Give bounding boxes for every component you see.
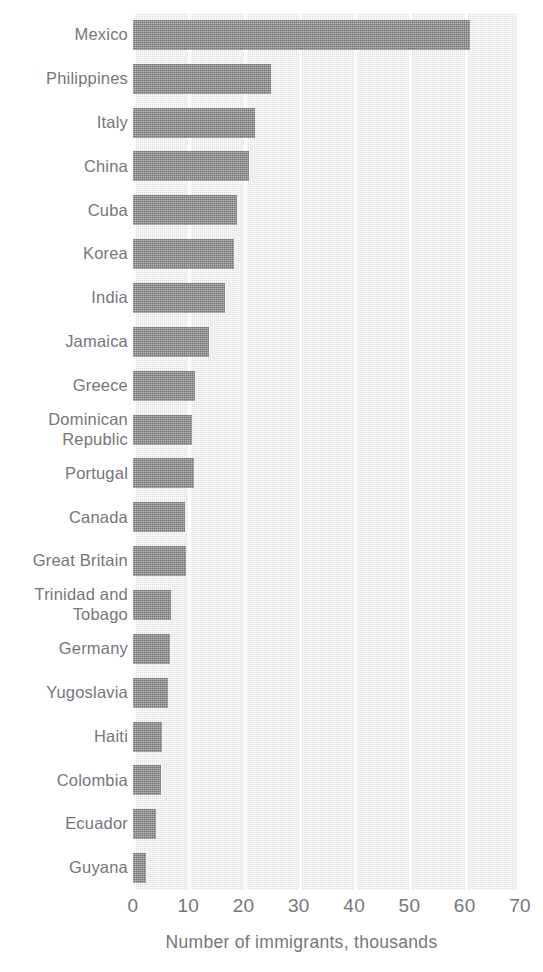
bar — [133, 195, 237, 225]
bar — [133, 502, 185, 532]
bar — [133, 151, 249, 181]
category-label: Yugoslavia — [0, 683, 128, 703]
bar-row — [133, 64, 520, 94]
category-label: Haiti — [0, 727, 128, 747]
bar-row — [133, 108, 520, 138]
category-label: Great Britain — [0, 551, 128, 571]
category-label: Jamaica — [0, 332, 128, 352]
bar-row — [133, 502, 520, 532]
x-tick-label-0: 0 — [128, 893, 139, 919]
category-label: Canada — [0, 508, 128, 528]
gridline-70 — [517, 13, 520, 890]
gridline-0 — [133, 13, 136, 890]
category-label: China — [0, 157, 128, 177]
bar — [133, 20, 470, 50]
bar-row — [133, 20, 520, 50]
bar-row — [133, 546, 520, 576]
bar-row — [133, 765, 520, 795]
bar — [133, 590, 171, 620]
bar — [133, 283, 225, 313]
bar — [133, 765, 161, 795]
x-tick-label-30: 30 — [288, 893, 310, 919]
bar-row — [133, 283, 520, 313]
bar-row — [133, 458, 520, 488]
bar — [133, 853, 146, 883]
bar — [133, 415, 192, 445]
category-label: Dominican Republic — [0, 410, 128, 449]
plot-area — [133, 13, 520, 890]
x-tick-label-70: 70 — [509, 893, 531, 919]
bar-row — [133, 195, 520, 225]
bar — [133, 64, 271, 94]
bar-row — [133, 151, 520, 181]
bar — [133, 108, 255, 138]
category-label: Portugal — [0, 464, 128, 484]
category-label: Ecuador — [0, 814, 128, 834]
bar-row — [133, 809, 520, 839]
bar-row — [133, 239, 520, 269]
category-label: Colombia — [0, 771, 128, 791]
x-tick-label-60: 60 — [454, 893, 476, 919]
category-label: Mexico — [0, 25, 128, 45]
category-label: Cuba — [0, 201, 128, 221]
gridline-50 — [409, 13, 412, 890]
bar-row — [133, 371, 520, 401]
category-label: Korea — [0, 244, 128, 264]
category-label: India — [0, 288, 128, 308]
category-label: Greece — [0, 376, 128, 396]
bar — [133, 546, 186, 576]
category-label: Philippines — [0, 69, 128, 89]
gridline-60 — [465, 13, 468, 890]
x-tick-label-40: 40 — [343, 893, 365, 919]
bar — [133, 371, 195, 401]
gridline-30 — [299, 13, 302, 890]
bar-row — [133, 634, 520, 664]
gridline-20 — [244, 13, 247, 890]
category-label: Italy — [0, 113, 128, 133]
bar — [133, 634, 170, 664]
x-axis-tick-labels: 010203040506070 — [133, 893, 520, 923]
gridline-10 — [188, 13, 191, 890]
bar-row — [133, 853, 520, 883]
bar — [133, 458, 194, 488]
x-tick-label-20: 20 — [233, 893, 255, 919]
category-axis-labels: MexicoPhilippinesItalyChinaCubaKoreaIndi… — [0, 13, 128, 890]
bar-row — [133, 678, 520, 708]
x-tick-label-50: 50 — [399, 893, 421, 919]
bar-row — [133, 327, 520, 357]
bar — [133, 809, 156, 839]
bar — [133, 678, 168, 708]
category-label: Guyana — [0, 858, 128, 878]
category-label: Trinidad and Tobago — [0, 585, 128, 624]
bar-row — [133, 722, 520, 752]
bar-row — [133, 590, 520, 620]
x-tick-label-10: 10 — [177, 893, 199, 919]
bar — [133, 722, 162, 752]
bar — [133, 327, 209, 357]
x-axis-title: Number of immigrants, thousands — [0, 932, 543, 953]
bar-row — [133, 415, 520, 445]
category-label: Germany — [0, 639, 128, 659]
bar — [133, 239, 234, 269]
bar-chart: MexicoPhilippinesItalyChinaCubaKoreaIndi… — [0, 0, 543, 972]
gridline-40 — [354, 13, 357, 890]
